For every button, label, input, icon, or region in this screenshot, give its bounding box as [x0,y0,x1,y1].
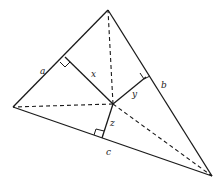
side-a [13,10,108,107]
right-angle-marker-a [60,62,70,67]
dashed-to-left-vertex [13,104,113,107]
label-a: a [40,66,45,76]
perpendicular-x [65,57,113,104]
triangle-diagram: a b c x y z [0,0,224,186]
label-x: x [91,69,96,79]
side-b [108,10,212,176]
perpendicular-y [113,77,146,104]
dashed-to-top-vertex [108,10,113,104]
label-z: z [109,118,115,128]
label-b: b [161,80,167,90]
dashed-to-right-vertex [113,104,212,176]
label-c: c [106,147,111,157]
label-y: y [131,89,138,99]
right-angle-marker-c [94,129,104,135]
